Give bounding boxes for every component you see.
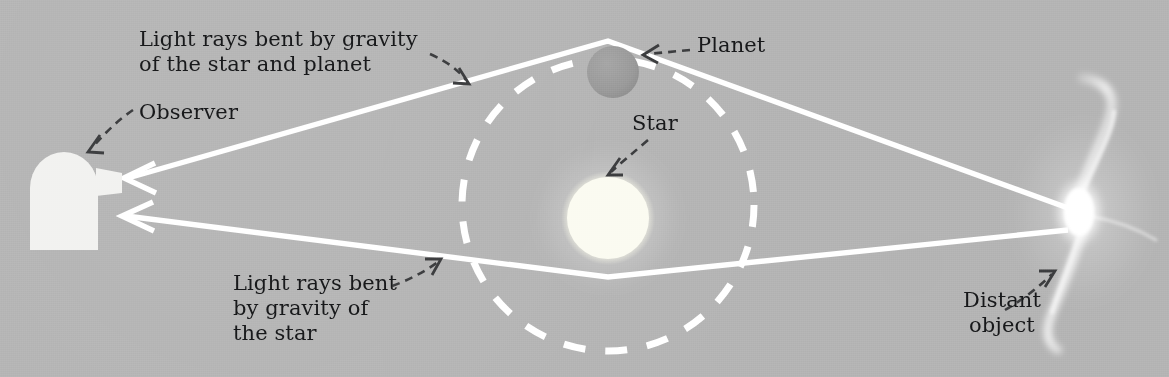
observer-observatory — [30, 152, 122, 250]
label-star: Star — [632, 111, 678, 136]
leader-planet — [648, 50, 690, 54]
label-light-rays-top: Light rays bent by gravity of the star a… — [139, 27, 418, 77]
leader-rays-top — [430, 54, 466, 80]
leader-observer — [92, 110, 133, 148]
star-object — [534, 144, 682, 292]
label-distant-object: Distant object — [963, 288, 1041, 338]
diagram-canvas: Light rays bent by gravity of the star a… — [0, 0, 1169, 377]
label-planet: Planet — [697, 33, 765, 58]
label-light-rays-bottom: Light rays bent by gravity of the star — [233, 271, 397, 346]
planet-object — [587, 46, 639, 98]
label-observer: Observer — [139, 100, 238, 125]
